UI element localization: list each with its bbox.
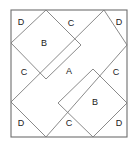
piece-c-left-label: C xyxy=(21,67,28,77)
piece-d-bottom-right-label: D xyxy=(116,118,123,128)
piece-c-top-label: C xyxy=(68,18,75,28)
piece-d-top-right-label: D xyxy=(116,17,123,27)
piece-c-bottom-label: C xyxy=(66,118,73,128)
piece-d-bottom-left-label: D xyxy=(18,118,25,128)
piece-c-right-label: C xyxy=(113,67,120,77)
dissection-canvas: A B B C C C C D D D D xyxy=(0,0,139,146)
piece-a-center-label: A xyxy=(66,66,72,76)
dissection-figure: A B B C C C C D D D D xyxy=(0,0,139,146)
piece-d-top-left-label: D xyxy=(18,17,25,27)
piece-b-upper-left-label: B xyxy=(41,38,47,48)
piece-b-lower-right-label: B xyxy=(92,97,98,107)
